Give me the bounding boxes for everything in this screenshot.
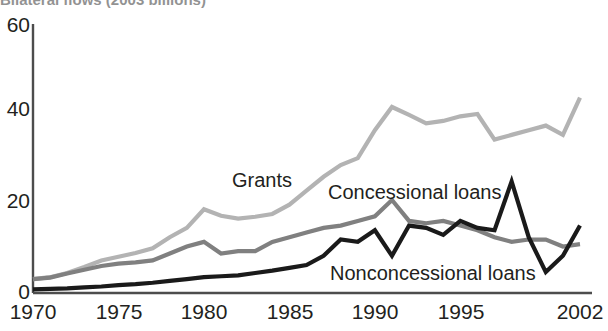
series-label-concessional-loans: Concessional loans: [328, 182, 501, 202]
series-label-nonconcessional-loans: Nonconcessional loans: [330, 263, 536, 283]
series-label-grants: Grants: [232, 170, 292, 190]
